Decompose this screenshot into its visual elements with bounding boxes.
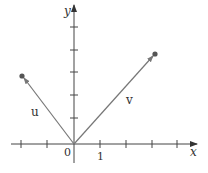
diagram-svg: y x 0 1 u v bbox=[0, 0, 208, 173]
vector-v-endpoint bbox=[152, 51, 157, 56]
vector-v bbox=[74, 51, 158, 144]
vector-u bbox=[19, 73, 74, 144]
origin-label: 0 bbox=[64, 146, 71, 159]
y-axis-label: y bbox=[63, 4, 71, 18]
vector-u-label: u bbox=[31, 105, 39, 119]
unit-tick-label: 1 bbox=[97, 150, 104, 163]
x-axis bbox=[11, 140, 197, 148]
vector-diagram: y x 0 1 u v bbox=[0, 0, 208, 173]
x-axis-label: x bbox=[190, 145, 197, 159]
vector-v-label: v bbox=[125, 93, 133, 107]
y-axis bbox=[70, 5, 78, 163]
vector-u-endpoint bbox=[19, 73, 24, 78]
